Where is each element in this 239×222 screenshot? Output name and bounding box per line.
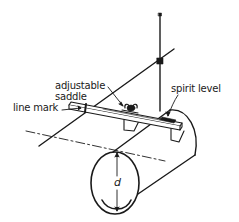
line-mark: [85, 104, 86, 112]
label-saddle: saddle: [55, 92, 87, 102]
vertical-rod: [157, 13, 163, 111]
label-spirit-level: spirit level: [171, 84, 221, 94]
pipe-leveling-diagram: adjustable saddle spirit level line mark…: [0, 0, 239, 222]
label-adjustable: adjustable: [55, 81, 105, 91]
centerline: [26, 131, 165, 161]
label-diameter: d: [113, 178, 122, 188]
label-line-mark: line mark: [13, 103, 58, 113]
